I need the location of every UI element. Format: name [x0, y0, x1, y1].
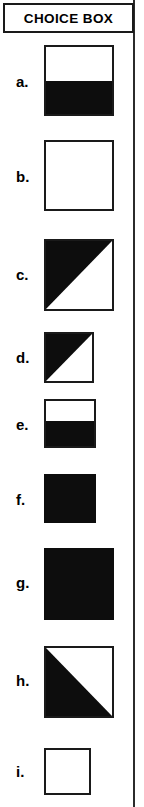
choice-option-d[interactable]: d.: [0, 328, 133, 390]
black-bottom-half: [46, 421, 94, 446]
choice-box-panel: CHOICE BOX a. b. c. d. e.: [0, 0, 144, 807]
choice-label-a: a.: [16, 73, 29, 90]
lower-left-triangle-icon: [46, 648, 112, 716]
upper-left-triangle-icon: [46, 334, 92, 381]
page-title: CHOICE BOX: [24, 11, 114, 26]
choice-option-g[interactable]: g.: [0, 543, 133, 627]
choice-shape-b[interactable]: [44, 140, 114, 211]
panel-right-divider: [133, 0, 135, 807]
choice-option-i[interactable]: i.: [0, 745, 133, 801]
choice-option-a[interactable]: a.: [0, 40, 133, 126]
choice-option-f[interactable]: f.: [0, 470, 133, 530]
choice-shape-d[interactable]: [44, 332, 94, 383]
choice-shape-g[interactable]: [44, 548, 114, 620]
choice-shape-a[interactable]: [44, 45, 114, 116]
choice-label-d: d.: [16, 349, 29, 366]
choice-option-e[interactable]: e.: [0, 396, 133, 456]
choice-option-c[interactable]: c.: [0, 234, 133, 320]
choice-option-h[interactable]: h.: [0, 641, 133, 725]
choice-option-b[interactable]: b.: [0, 135, 133, 221]
choice-label-h: h.: [16, 672, 29, 689]
upper-left-triangle-icon: [46, 241, 112, 309]
choice-shape-e[interactable]: [44, 399, 96, 448]
choice-label-c: c.: [16, 266, 29, 283]
black-bottom-half: [46, 81, 112, 115]
choice-label-i: i.: [16, 763, 24, 780]
choice-shape-f[interactable]: [44, 474, 96, 523]
choice-shape-h[interactable]: [44, 646, 114, 718]
choice-label-e: e.: [16, 416, 29, 433]
choice-label-f: f.: [16, 491, 25, 508]
choice-label-b: b.: [16, 168, 29, 185]
choice-shape-i[interactable]: [44, 748, 91, 795]
choice-label-g: g.: [16, 574, 29, 591]
choice-shape-c[interactable]: [44, 239, 114, 311]
choice-box-header: CHOICE BOX: [3, 3, 134, 33]
